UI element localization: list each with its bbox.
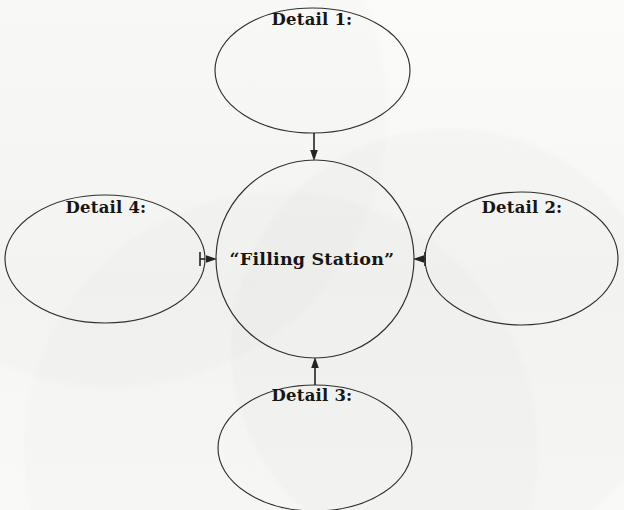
node-label-detail-3: Detail 3: [0, 386, 624, 405]
node-label-detail-1: Detail 1: [0, 10, 624, 29]
node-label-detail-2: Detail 2: [424, 198, 620, 217]
node-label-detail-4: Detail 4: [8, 198, 204, 217]
node-label-center: “Filling Station” [0, 249, 624, 269]
diagram-canvas: Detail 1: Detail 2: Detail 3: Detail 4: … [0, 0, 624, 510]
connector-bottom [311, 357, 319, 385]
connector-top [310, 133, 318, 161]
